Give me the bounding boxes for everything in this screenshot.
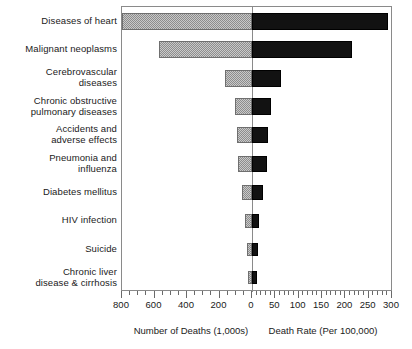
axis-tick-minor [382,291,383,295]
axis-tick-major [186,291,187,298]
bar-row [122,41,393,58]
axis-tick-minor [210,291,211,295]
bar-row [122,13,393,30]
category-axis-labels: Diseases of heartMalignant neoplasmsCere… [0,0,117,291]
bar-left-deaths [245,214,252,228]
axis-tick-minor [307,291,308,295]
bar-left-deaths [225,70,252,87]
axis-tick-minor [340,291,341,295]
axis-tick-label: 400 [178,299,194,310]
axis-tick-label: 200 [211,299,227,310]
axis-tick-minor [284,291,285,295]
value-axis-tick-labels: 800600400200050100150200250300 [0,299,412,313]
axis-tick-major [274,291,275,298]
axis-tick-label: 100 [290,299,306,310]
axis-tick-major [368,291,369,298]
axis-tick-label: 600 [146,299,162,310]
axis-tick-minor [202,291,203,295]
bar-row [122,243,393,256]
axis-tick-minor [235,291,236,295]
category-label: Accidents and adverse effects [4,123,117,145]
category-label: Chronic liver disease & cirrhosis [4,266,117,288]
chart-figure: Diseases of heartMalignant neoplasmsCere… [0,0,412,349]
axis-tick-minor [256,291,257,295]
bar-row [122,127,393,143]
bar-right-rate [252,271,257,284]
axis-tick-minor [265,291,266,295]
axis-tick-minor [170,291,171,295]
category-label: Diseases of heart [4,15,117,26]
bar-right-rate [252,156,267,172]
category-label: Diabetes mellitus [4,186,117,197]
bar-left-deaths [237,127,252,143]
axis-tick-label: 250 [360,299,376,310]
axis-tick-minor [386,291,387,295]
axis-tick-minor [330,291,331,295]
value-axis-titles: Number of Deaths (1,000s)Death Rate (Per… [0,325,412,339]
category-label: Suicide [4,243,117,254]
left-axis-title: Number of Deaths (1,000s) [134,325,249,337]
axis-tick-minor [363,291,364,295]
bar-row [122,156,393,172]
axis-tick-minor [358,291,359,295]
bar-right-rate [252,243,258,256]
category-label: Malignant neoplasms [4,43,117,54]
axis-tick-minor [377,291,378,295]
axis-tick-label: 800 [113,299,129,310]
axis-tick-minor [326,291,327,295]
axis-tick-minor [194,291,195,295]
axis-tick-major [344,291,345,298]
axis-tick-minor [316,291,317,295]
bar-row [122,271,393,284]
axis-tick-label: 150 [313,299,329,310]
axis-tick-minor [137,291,138,295]
axis-tick-major [298,291,299,298]
axis-tick-major [321,291,322,298]
axis-tick-minor [288,291,289,295]
axis-tick-minor [145,291,146,295]
bar-row [122,185,393,200]
category-label: Pneumonia and influenza [4,152,117,174]
value-axis-ticks [121,291,392,299]
axis-tick-minor [270,291,271,295]
axis-tick-minor [349,291,350,295]
axis-tick-minor [162,291,163,295]
bar-right-rate [252,98,271,115]
bar-left-deaths [159,41,252,58]
axis-tick-minor [354,291,355,295]
axis-tick-label: 300 [383,299,399,310]
axis-tick-minor [335,291,336,295]
bar-right-rate [252,185,263,200]
axis-tick-label: 50 [269,299,280,310]
bar-right-rate [252,13,388,30]
category-label: Chronic obstructive pulmonary diseases [4,95,117,117]
plot-area [121,6,392,291]
axis-tick-minor [312,291,313,295]
bar-right-rate [252,70,281,87]
axis-tick-minor [243,291,244,295]
axis-tick-minor [293,291,294,295]
axis-tick-label: 0 [248,299,253,310]
axis-tick-minor [178,291,179,295]
bar-right-rate [252,127,268,143]
bar-left-deaths [242,185,252,200]
bar-left-deaths [238,156,252,172]
axis-tick-minor [227,291,228,295]
category-label: Cerebrovascular diseases [4,66,117,88]
axis-tick-minor [260,291,261,295]
axis-tick-major [121,291,122,298]
bar-left-deaths [235,98,252,115]
axis-tick-major [251,291,252,298]
axis-tick-minor [129,291,130,295]
category-label: HIV infection [4,214,117,225]
bar-left-deaths [122,13,252,30]
bar-row [122,214,393,228]
axis-tick-minor [279,291,280,295]
bar-row [122,70,393,87]
right-axis-title: Death Rate (Per 100,000) [269,325,378,337]
bar-right-rate [252,214,259,228]
axis-tick-minor [372,291,373,295]
axis-tick-minor [302,291,303,295]
bar-row [122,98,393,115]
axis-tick-major [219,291,220,298]
